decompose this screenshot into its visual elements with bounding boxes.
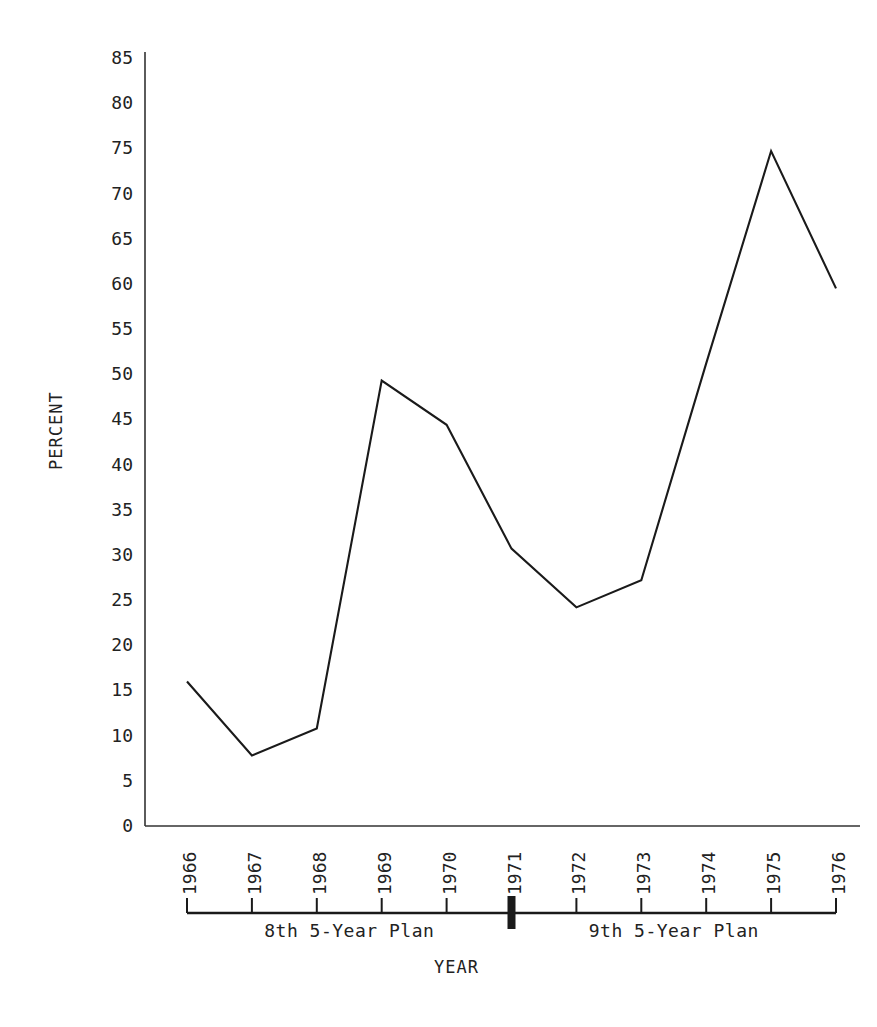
- x-tick-label: 1970: [439, 852, 460, 895]
- x-tick-label: 1966: [179, 852, 200, 895]
- x-tick-label: 1972: [568, 852, 589, 895]
- y-tick-label: 30: [89, 544, 133, 565]
- y-tick-label: 15: [89, 679, 133, 700]
- plan-period-label-8th: 8th 5-Year Plan: [264, 920, 434, 941]
- y-tick-label: 0: [89, 815, 133, 836]
- y-tick-label: 40: [89, 454, 133, 475]
- y-tick-label: 70: [89, 183, 133, 204]
- y-tick-label: 10: [89, 725, 133, 746]
- data-series-line: [187, 151, 836, 755]
- y-tick-label: 50: [89, 363, 133, 384]
- y-tick-label: 65: [89, 228, 133, 249]
- y-tick-label: 80: [89, 92, 133, 113]
- y-tick-label: 85: [89, 47, 133, 68]
- y-tick-label: 20: [89, 634, 133, 655]
- x-tick-label: 1968: [309, 852, 330, 895]
- y-tick-label: 5: [89, 770, 133, 791]
- y-axis-title: PERCENT: [46, 391, 66, 470]
- y-tick-label: 60: [89, 273, 133, 294]
- x-tick-label: 1974: [698, 852, 719, 895]
- x-tick-label: 1969: [374, 852, 395, 895]
- y-tick-label: 55: [89, 318, 133, 339]
- y-tick-label: 35: [89, 499, 133, 520]
- y-tick-label: 25: [89, 589, 133, 610]
- plan-divider-marker: [508, 896, 516, 929]
- x-tick-label: 1975: [763, 852, 784, 895]
- y-tick-label: 45: [89, 408, 133, 429]
- x-tick-label: 1976: [828, 852, 849, 895]
- y-tick-label: 75: [89, 137, 133, 158]
- chart-figure: 0510152025303540455055606570758085 19661…: [0, 0, 877, 1027]
- plan-period-label-9th: 9th 5-Year Plan: [589, 920, 759, 941]
- x-tick-label: 1973: [633, 852, 654, 895]
- x-axis-title: YEAR: [434, 957, 479, 977]
- x-tick-label: 1967: [244, 852, 265, 895]
- x-tick-label: 1971: [504, 852, 525, 895]
